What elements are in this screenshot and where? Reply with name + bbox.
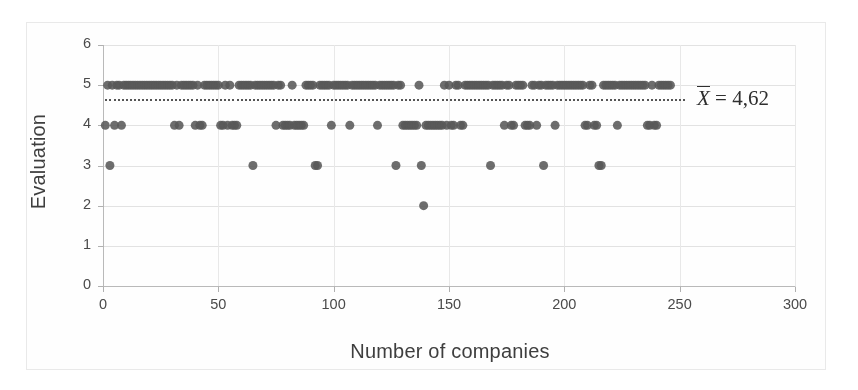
y-axis-title: Evaluation [27, 62, 50, 262]
y-tick-label: 1 [65, 236, 91, 252]
x-tick-label: 250 [650, 296, 710, 312]
mean-value-annotation: X = 4,62 [697, 86, 769, 111]
y-tick-label: 5 [65, 75, 91, 91]
y-tick-label: 2 [65, 196, 91, 212]
x-tick-label: 300 [765, 296, 825, 312]
x-axis-title: Number of companies [103, 340, 797, 363]
y-tick-label: 4 [65, 115, 91, 131]
mean-equals-text: = 4,62 [715, 86, 769, 110]
x-bar-symbol: X [697, 86, 710, 109]
x-tick-label: 50 [188, 296, 248, 312]
y-tick-label: 6 [65, 35, 91, 51]
x-tick-label: 200 [534, 296, 594, 312]
y-tick-label: 0 [65, 276, 91, 292]
x-tick-label: 0 [73, 296, 133, 312]
x-tick-label: 150 [419, 296, 479, 312]
x-tick-label: 100 [304, 296, 364, 312]
y-tick-label: 3 [65, 156, 91, 172]
evaluation-scatter-figure: Evaluation Number of companies 0123456 0… [0, 0, 858, 390]
scatter-plot-canvas [0, 0, 858, 390]
